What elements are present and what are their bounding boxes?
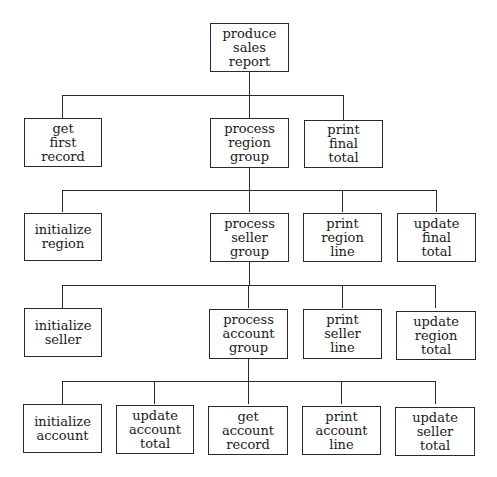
node-update-seller-total: update seller total (395, 407, 475, 456)
connector (62, 95, 63, 118)
node-print-final-total: print final total (304, 120, 383, 168)
connector (249, 167, 250, 190)
node-label: final (329, 137, 358, 151)
connector (249, 261, 250, 285)
connector (62, 285, 436, 286)
node-update-account-total: update account total (116, 405, 194, 454)
node-label: account (36, 429, 88, 443)
node-label: initialize (35, 223, 92, 237)
node-label: process (223, 313, 274, 327)
node-initialize-seller: initialize seller (24, 308, 102, 357)
connector (436, 190, 437, 212)
node-label: seller (45, 333, 82, 347)
node-label: line (330, 245, 354, 259)
node-label: process (224, 217, 275, 231)
node-label: first (50, 136, 77, 150)
connector (62, 381, 436, 382)
node-label: line (329, 438, 353, 452)
node-label: produce (222, 27, 276, 41)
node-label: account (222, 327, 274, 341)
node-label: get (237, 410, 258, 424)
node-get-first-record: get first record (24, 118, 102, 167)
node-label: region (42, 237, 85, 251)
connector (341, 381, 342, 404)
connector (435, 285, 436, 308)
connector (62, 285, 63, 308)
node-process-region-group: process region group (210, 118, 289, 168)
connector (249, 190, 250, 212)
node-label: total (328, 151, 358, 165)
node-label: sales (233, 41, 266, 55)
node-label: print (325, 410, 357, 424)
node-label: region (228, 136, 271, 150)
node-label: account (129, 423, 181, 437)
node-label: account (315, 424, 367, 438)
node-get-account-record: get account record (208, 406, 288, 455)
connector (248, 285, 249, 308)
structure-chart: produce sales report get first record pr… (0, 0, 497, 477)
node-update-region-total: update region total (396, 311, 476, 360)
connector (435, 381, 436, 404)
node-print-region-line: print region line (303, 213, 382, 262)
node-label: group (230, 150, 269, 164)
node-label: group (229, 341, 268, 355)
connector (342, 190, 343, 212)
node-label: seller (417, 425, 454, 439)
node-label: region (415, 329, 458, 343)
connector (248, 358, 249, 381)
connector (154, 381, 155, 404)
node-label: seller (231, 231, 268, 245)
node-label: line (330, 341, 354, 355)
node-process-account-group: process account group (209, 309, 288, 359)
node-label: initialize (34, 415, 91, 429)
node-label: report (229, 55, 271, 69)
node-label: initialize (35, 319, 92, 333)
connector (62, 95, 344, 96)
connector (342, 285, 343, 308)
node-initialize-region: initialize region (24, 213, 102, 261)
connector (62, 190, 63, 212)
node-label: print (326, 217, 358, 231)
node-label: print (327, 123, 359, 137)
node-print-account-line: print account line (302, 406, 381, 455)
node-label: total (420, 439, 450, 453)
node-label: final (422, 231, 451, 245)
node-label: record (41, 150, 85, 164)
node-initialize-account: initialize account (23, 404, 102, 453)
node-label: account (222, 424, 274, 438)
node-label: print (326, 313, 358, 327)
node-label: get (52, 122, 73, 136)
node-label: total (421, 245, 451, 259)
node-label: total (140, 437, 170, 451)
connector (249, 95, 250, 118)
node-label: process (224, 122, 275, 136)
node-label: record (226, 438, 270, 452)
connector (343, 95, 344, 120)
node-label: seller (324, 327, 361, 341)
connector (62, 381, 63, 404)
node-produce-sales-report: produce sales report (210, 23, 289, 72)
node-update-final-total: update final total (397, 213, 476, 262)
connector (249, 71, 250, 95)
node-label: region (321, 231, 364, 245)
node-label: update (413, 315, 459, 329)
node-label: update (132, 409, 178, 423)
node-label: update (412, 411, 458, 425)
node-label: group (230, 245, 269, 259)
node-label: total (421, 343, 451, 357)
connector (248, 381, 249, 404)
node-print-seller-line: print seller line (303, 309, 382, 359)
node-label: update (414, 217, 460, 231)
node-process-seller-group: process seller group (210, 213, 289, 262)
